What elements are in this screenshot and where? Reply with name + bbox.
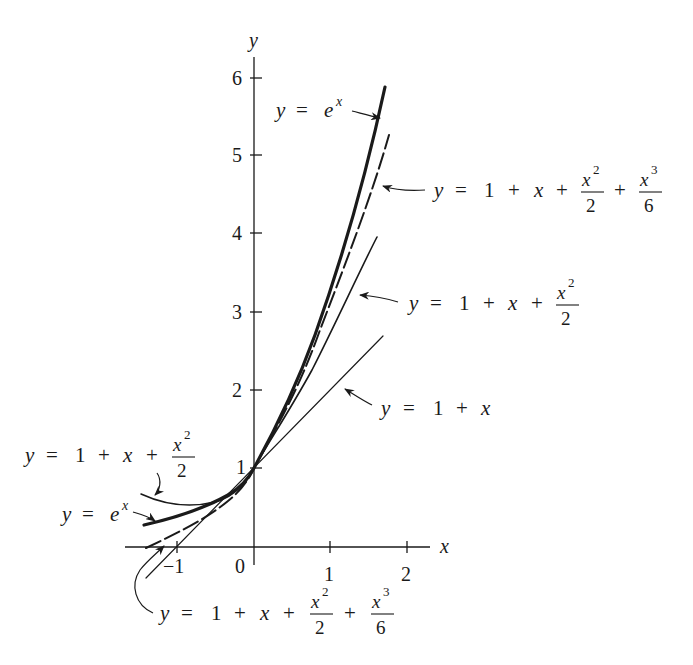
svg-text:x: x [533, 178, 544, 202]
svg-text:6: 6 [644, 195, 654, 216]
axes [125, 57, 430, 565]
cubic-approximation-curve [146, 135, 389, 548]
y-axis-label: y [247, 29, 258, 52]
svg-text:x: x [172, 434, 182, 455]
svg-text:y: y [158, 601, 170, 625]
svg-text:+: + [556, 178, 568, 202]
svg-text:x: x [507, 291, 518, 315]
svg-text:+: + [614, 178, 626, 202]
arrow-ex-top [352, 111, 380, 118]
svg-text:2: 2 [315, 617, 325, 638]
svg-text:x: x [122, 443, 133, 467]
svg-text:y: y [23, 443, 35, 467]
svg-text:+: + [344, 601, 356, 625]
svg-text:+: + [146, 443, 158, 467]
y-tick-label: 4 [232, 222, 242, 244]
y-tick-label: 5 [232, 144, 242, 166]
svg-text:2: 2 [586, 195, 596, 216]
svg-text:=: = [82, 502, 94, 526]
svg-text:=: = [296, 98, 308, 122]
svg-text:x: x [639, 169, 649, 190]
svg-text:6: 6 [376, 617, 386, 638]
svg-text:+: + [483, 291, 495, 315]
svg-text:+: + [456, 396, 468, 420]
label-linear-right: y = 1 + x [379, 396, 491, 420]
arrow-quad-left [155, 473, 160, 495]
svg-text:x: x [259, 601, 270, 625]
svg-text:2: 2 [322, 584, 329, 599]
svg-text:3: 3 [651, 162, 658, 177]
svg-text:x: x [335, 94, 343, 109]
svg-text:x: x [371, 591, 381, 612]
x-tick-label: −1 [163, 555, 184, 577]
arrow-quad-right [360, 295, 398, 302]
svg-text:1: 1 [433, 396, 444, 420]
x-axis-label: x [439, 535, 449, 557]
arrow-cubic-right [383, 186, 425, 190]
svg-text:x: x [556, 282, 566, 303]
svg-text:1: 1 [459, 291, 470, 315]
label-cubic-right: y = 1 + x + x 2 2 + x 3 6 [432, 162, 662, 216]
svg-text:x: x [581, 169, 591, 190]
svg-text:=: = [181, 601, 193, 625]
svg-text:e: e [110, 502, 119, 526]
svg-text:1: 1 [75, 443, 86, 467]
svg-text:=: = [403, 396, 415, 420]
svg-text:y: y [407, 291, 419, 315]
label-ex-left: y = e x [60, 498, 129, 526]
svg-text:+: + [234, 601, 246, 625]
y-tick-label: 1 [236, 456, 246, 478]
svg-text:y: y [379, 396, 391, 420]
label-quad-left: y = 1 + x + x 2 2 [23, 427, 195, 481]
y-tick-label: 2 [232, 379, 242, 401]
svg-text:2: 2 [561, 308, 571, 329]
origin-label: 0 [235, 555, 245, 577]
svg-text:2: 2 [593, 162, 600, 177]
svg-text:3: 3 [383, 584, 390, 599]
y-tick-label: 6 [232, 67, 242, 89]
svg-text:=: = [46, 443, 58, 467]
svg-text:=: = [455, 178, 467, 202]
svg-text:2: 2 [184, 427, 191, 442]
svg-text:x: x [121, 498, 129, 513]
svg-text:e: e [324, 98, 333, 122]
svg-text:1: 1 [484, 178, 495, 202]
svg-text:x: x [480, 396, 491, 420]
label-ex-top: y = e x [274, 94, 343, 122]
svg-text:=: = [430, 291, 442, 315]
svg-text:2: 2 [568, 275, 575, 290]
svg-text:1: 1 [211, 601, 222, 625]
label-cubic-bottom: y = 1 + x + x 2 2 + x 3 6 [158, 584, 394, 638]
x-tick-label: 1 [324, 563, 334, 585]
svg-text:+: + [531, 291, 543, 315]
arrow-linear-right [345, 389, 372, 405]
label-quad-right: y = 1 + x + x 2 2 [407, 275, 579, 329]
svg-text:y: y [432, 178, 444, 202]
svg-text:+: + [283, 601, 295, 625]
svg-text:y: y [60, 502, 72, 526]
arrow-ex-left [133, 512, 155, 521]
x-tick-label: 2 [401, 563, 411, 585]
svg-text:y: y [274, 98, 286, 122]
svg-text:+: + [508, 178, 520, 202]
svg-text:x: x [310, 591, 320, 612]
svg-text:2: 2 [177, 460, 187, 481]
y-tick-label: 3 [232, 301, 242, 323]
taylor-approximation-chart: y x 0 −1 1 2 1 2 3 4 5 6 y = e x y = 1 [0, 0, 693, 665]
svg-text:+: + [98, 443, 110, 467]
